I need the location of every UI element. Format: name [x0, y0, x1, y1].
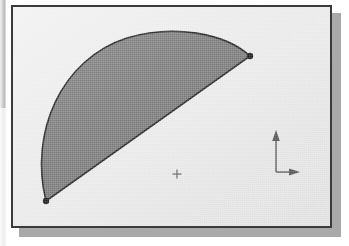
cad-drawing-canvas[interactable] — [13, 7, 330, 226]
screenshot-root — [0, 0, 349, 246]
cad-drawing-svg — [13, 7, 330, 226]
page-edge-strip-lower — [0, 108, 6, 246]
node-marker-start[interactable] — [43, 198, 49, 204]
page-edge-strip-upper — [0, 0, 6, 108]
node-marker-end[interactable] — [247, 53, 253, 59]
cad-viewport-window[interactable] — [11, 5, 332, 228]
